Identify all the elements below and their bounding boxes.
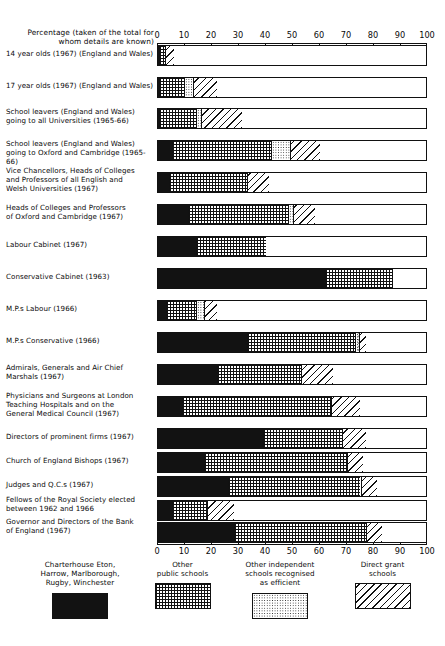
chart-legend: Charterhouse Eton,Harrow, Marlborough,Ru… <box>0 560 445 646</box>
row-label-line-0: Directors of prominent firms (1967) <box>6 433 154 442</box>
stacked-bar[interactable] <box>157 172 427 193</box>
row-label-line-0: Judges and Q.C.s (1967) <box>6 481 154 490</box>
row-label: Church of England Bishops (1967) <box>6 457 154 466</box>
stacked-bar[interactable] <box>157 396 427 417</box>
bar-segment-direct-grant <box>301 365 333 384</box>
bar-segment-direct-grant <box>201 109 242 128</box>
row-label: Directors of prominent firms (1967) <box>6 433 154 442</box>
bar-segment-direct-grant <box>366 523 382 542</box>
row-label-line-1: between 1962 and 1966 <box>6 505 154 514</box>
chart-page: Percentage (taken of the total forwhom d… <box>0 0 445 646</box>
legend-item-label-line-1: schools <box>335 569 430 578</box>
legend-item[interactable]: Charterhouse Eton,Harrow, Marlborough,Ru… <box>30 560 130 619</box>
legend-item-label-line-1: Harrow, Marlborough, <box>30 569 130 578</box>
row-label-line-0: M.P.s Labour (1966) <box>6 305 154 314</box>
stacked-bar[interactable] <box>157 500 427 521</box>
bar-segment-clarendon <box>158 237 196 256</box>
stacked-bar[interactable] <box>157 300 427 321</box>
x-tick-label-60-bottom: 60 <box>314 546 324 556</box>
stacked-bar[interactable] <box>157 140 427 161</box>
x-tick-label-80-bottom: 80 <box>368 546 378 556</box>
bar-segment-other-public <box>217 365 301 384</box>
bar-segment-clarendon <box>158 333 247 352</box>
legend-item[interactable]: Otherpublic schools <box>135 560 230 609</box>
x-tick-label-90-top: 90 <box>395 30 405 40</box>
legend-swatch-hatch <box>355 583 411 609</box>
stacked-bar[interactable] <box>157 268 427 289</box>
bar-segment-other-independent <box>196 301 204 320</box>
bar-segment-clarendon <box>158 429 263 448</box>
x-tick-label-70-top: 70 <box>341 30 351 40</box>
bar-segment-other-public <box>166 301 196 320</box>
row-label-line-1: of Oxford and Cambridge (1967) <box>6 213 154 222</box>
x-tick-label-10-top: 10 <box>179 30 189 40</box>
row-label-line-0: 14 year olds (1967) (England and Wales) <box>6 50 154 59</box>
bar-segment-other-public <box>169 173 247 192</box>
row-label-line-1: going to all Universities (1965-66) <box>6 117 154 126</box>
legend-item-label-line-0: Other <box>135 560 230 569</box>
stacked-bar[interactable] <box>157 45 427 66</box>
stacked-bar[interactable] <box>157 236 427 257</box>
bar-segment-clarendon <box>158 453 204 472</box>
x-tick-label-0-bottom: 0 <box>154 546 159 556</box>
row-label: Judges and Q.C.s (1967) <box>6 481 154 490</box>
bar-segment-direct-grant <box>359 333 366 352</box>
x-tick-label-30-bottom: 30 <box>233 546 243 556</box>
bar-segment-other-public <box>159 78 184 97</box>
row-label-line-0: Church of England Bishops (1967) <box>6 457 154 466</box>
x-axis-tick-labels-top: 0102030405060708090100 <box>157 30 427 42</box>
row-label: Labour Cabinet (1967) <box>6 241 154 250</box>
stacked-bar[interactable] <box>157 332 427 353</box>
stacked-bar[interactable] <box>157 108 427 129</box>
row-label-line-0: M.P.s Conservative (1966) <box>6 337 154 346</box>
x-tick-label-50-bottom: 50 <box>287 546 297 556</box>
bar-segment-direct-grant <box>361 477 377 496</box>
x-tick-label-50-top: 50 <box>287 30 297 40</box>
legend-item[interactable]: Direct grantschools <box>335 560 430 609</box>
stacked-bar[interactable] <box>157 77 427 98</box>
x-tick-label-100-top: 100 <box>419 30 435 40</box>
x-tick-label-100-bottom: 100 <box>419 546 435 556</box>
bar-segment-other-public <box>182 397 331 416</box>
legend-item[interactable]: Other independentschools recognisedas ef… <box>230 560 330 619</box>
x-tick-label-80-top: 80 <box>368 30 378 40</box>
legend-item-label: Otherpublic schools <box>135 560 230 578</box>
stacked-bar[interactable] <box>157 452 427 473</box>
bar-segment-clarendon <box>158 301 166 320</box>
row-label-line-2: General Medical Council (1967) <box>6 410 154 419</box>
legend-item-label: Charterhouse Eton,Harrow, Marlborough,Ru… <box>30 560 130 588</box>
row-label: School leavers (England and Wales)going … <box>6 108 154 126</box>
bar-segment-direct-grant <box>165 46 174 65</box>
bar-segment-other-independent <box>184 78 193 97</box>
x-tick-label-0-top: 0 <box>154 30 159 40</box>
stacked-bar[interactable] <box>157 364 427 385</box>
row-label-line-2: Welsh Universities (1967) <box>6 185 154 194</box>
row-label: 14 year olds (1967) (England and Wales) <box>6 50 154 59</box>
legend-item-label-line-0: Other independent <box>230 560 330 569</box>
bar-segment-clarendon <box>158 141 172 160</box>
legend-item-label-line-0: Charterhouse Eton, <box>30 560 130 569</box>
x-tick-label-40-bottom: 40 <box>260 546 270 556</box>
stacked-bar[interactable] <box>157 204 427 225</box>
stacked-bar[interactable] <box>157 522 427 543</box>
row-label: M.P.s Conservative (1966) <box>6 337 154 346</box>
row-label: Fellows of the Royal Society electedbetw… <box>6 496 154 514</box>
bar-segment-direct-grant <box>331 397 361 416</box>
bar-segment-other-public <box>204 453 347 472</box>
legend-item-label-line-1: public schools <box>135 569 230 578</box>
bar-segment-direct-grant <box>290 141 320 160</box>
legend-item-label-line-1: schools recognised <box>230 569 330 578</box>
x-tick-label-30-top: 30 <box>233 30 243 40</box>
bar-segment-direct-grant <box>193 78 218 97</box>
bar-segment-direct-grant <box>207 501 234 520</box>
bar-segment-other-public <box>172 141 272 160</box>
row-label-line-1: Marshals (1967) <box>6 373 154 382</box>
row-label: Conservative Cabinet (1963) <box>6 273 154 282</box>
stacked-bar[interactable] <box>157 476 427 497</box>
bar-segment-clarendon <box>158 523 234 542</box>
bar-segment-other-public <box>247 333 355 352</box>
legend-swatch-dots <box>252 593 308 619</box>
stacked-bar[interactable] <box>157 428 427 449</box>
x-axis-caption-line-1: whom details are known) <box>6 37 154 46</box>
row-label: Heads of Colleges and Professorsof Oxfor… <box>6 204 154 222</box>
